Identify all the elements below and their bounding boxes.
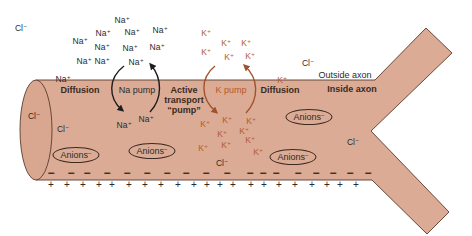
membrane-negative-charge: − (329, 167, 336, 179)
membrane-negative-charge: − (67, 167, 74, 179)
na-pump-label: Na pump (119, 86, 156, 95)
membrane-positive-charge: + (230, 180, 236, 190)
membrane-negative-charge: − (83, 167, 90, 179)
membrane-negative-charge: − (202, 167, 209, 179)
membrane-positive-charge: + (261, 180, 267, 190)
sodium-ion-outside: Na+ (77, 56, 92, 66)
axon-illustration (0, 0, 472, 236)
potassium-ion-inside: K+ (245, 135, 255, 145)
active-transport-line-2: transport (164, 95, 204, 105)
membrane-positive-charge: + (292, 180, 298, 190)
potassium-ion-outside: K+ (201, 47, 211, 57)
active-transport-label: Active transport “pump” (164, 85, 204, 115)
sodium-ion-outside: Na+ (123, 43, 138, 53)
sodium-ion-outside: Na+ (153, 25, 168, 35)
membrane-negative-charge: − (123, 167, 130, 179)
membrane-positive-charge: + (217, 180, 223, 190)
membrane-positive-charge: + (175, 180, 181, 190)
membrane-negative-charge: − (163, 167, 170, 179)
membrane-positive-charge: + (337, 180, 343, 190)
membrane-positive-charge: + (126, 180, 132, 190)
potassium-ion-inside: K+ (198, 143, 208, 153)
anions-label: Anions− (285, 109, 332, 125)
membrane-negative-charge: − (103, 167, 110, 179)
inside-axon-label: Inside axon (327, 85, 377, 94)
anions-label: Anions− (128, 143, 175, 159)
sodium-ion-outside: Na+ (129, 57, 144, 67)
membrane-positive-charge: + (191, 180, 197, 190)
membrane-negative-charge: − (312, 167, 319, 179)
membrane-positive-charge: + (96, 180, 102, 190)
potassium-ion-inside: K+ (221, 140, 231, 150)
membrane-positive-charge: + (109, 180, 115, 190)
membrane-negative-charge: − (223, 167, 230, 179)
membrane-positive-charge: + (48, 180, 54, 190)
chloride-ion-outside: Cl− (302, 58, 314, 68)
membrane-negative-charge: − (246, 167, 253, 179)
k-pump-label: K pump (215, 86, 246, 95)
chloride-ion-inside: Cl− (57, 124, 69, 134)
anions-label: Anions− (52, 147, 99, 163)
axon-cut-end (20, 80, 52, 180)
anions-label: Anions− (269, 149, 316, 165)
potassium-ion-inside: K+ (246, 116, 256, 126)
potassium-ion-outside: K+ (245, 51, 255, 61)
sodium-ion-outside: Na+ (56, 74, 71, 84)
membrane-positive-charge: + (309, 180, 315, 190)
potassium-ion-inside: K+ (217, 129, 227, 139)
potassium-ion-inside: K+ (200, 119, 210, 129)
sodium-ion-outside: Na+ (115, 15, 130, 25)
sodium-ion-outside: Na+ (73, 36, 88, 46)
membrane-positive-charge: + (158, 180, 164, 190)
membrane-positive-charge: + (142, 180, 148, 190)
sodium-ion-outside: Na+ (150, 42, 165, 52)
membrane-negative-charge: − (346, 167, 353, 179)
membrane-negative-charge: − (259, 167, 266, 179)
sodium-ion-outside: Na+ (125, 27, 140, 37)
potassium-ion-inside: K+ (222, 115, 232, 125)
membrane-negative-charge: − (47, 167, 54, 179)
diffusion-label-right: Diffusion (261, 86, 300, 95)
potassium-ion-outside: K+ (224, 52, 234, 62)
membrane-positive-charge: + (64, 180, 70, 190)
membrane-positive-charge: + (80, 180, 86, 190)
membrane-positive-charge: + (276, 180, 282, 190)
potassium-ion-outside: K+ (241, 38, 251, 48)
potassium-ion-outside: K+ (201, 28, 211, 38)
sodium-ion-inside: Na+ (139, 114, 154, 124)
active-transport-line-1: Active (164, 85, 204, 95)
membrane-positive-charge: + (204, 180, 210, 190)
membrane-negative-charge: − (364, 167, 371, 179)
chloride-ion-outside: Cl− (15, 23, 27, 33)
sodium-ion-inside: Na+ (117, 120, 132, 130)
diffusion-label-left: Diffusion (61, 86, 100, 95)
active-transport-line-3: “pump” (164, 105, 204, 115)
potassium-ion-outside: K+ (277, 75, 287, 85)
potassium-ion-outside: K+ (221, 38, 231, 48)
chloride-ion-inside: Cl− (28, 111, 40, 121)
membrane-negative-charge: − (294, 167, 301, 179)
membrane-negative-charge: − (182, 167, 189, 179)
membrane-positive-charge: + (353, 180, 359, 190)
membrane-negative-charge: − (272, 167, 279, 179)
membrane-negative-charge: − (143, 167, 150, 179)
sodium-ion-outside: Na+ (95, 42, 110, 52)
sodium-ion-outside: Na+ (95, 56, 110, 66)
axon-diagram: Diffusion Na pump Active transport “pump… (0, 0, 472, 236)
chloride-ion-inside: Cl− (347, 137, 359, 147)
membrane-positive-charge: + (324, 180, 330, 190)
sodium-ion-outside: Na+ (96, 28, 111, 38)
outside-axon-label: Outside axon (318, 71, 371, 80)
membrane-positive-charge: + (248, 180, 254, 190)
potassium-ion-inside: K+ (253, 147, 263, 157)
